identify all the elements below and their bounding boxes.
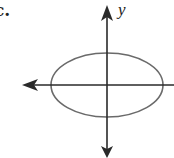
graph-canvas bbox=[0, 0, 174, 158]
ellipse-graph-figure: c. y bbox=[0, 0, 174, 158]
